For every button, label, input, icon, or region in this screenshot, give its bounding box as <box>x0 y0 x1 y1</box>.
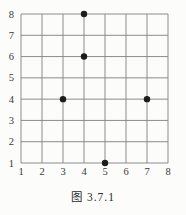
y-tick-label: 8 <box>9 9 14 20</box>
grid-chart: 1234567812345678 <box>0 0 186 186</box>
y-tick-label: 7 <box>9 30 14 41</box>
figure-3-7-1: 1234567812345678 图 3.7.1 <box>0 0 186 215</box>
x-tick-label: 7 <box>144 166 149 177</box>
data-point <box>81 53 87 59</box>
y-tick-label: 1 <box>9 158 14 169</box>
data-point <box>81 11 87 17</box>
y-tick-label: 4 <box>9 94 15 105</box>
y-tick-label: 5 <box>9 72 14 83</box>
x-tick-label: 1 <box>18 166 23 177</box>
data-point <box>102 160 108 166</box>
x-tick-label: 3 <box>60 166 65 177</box>
x-tick-label: 5 <box>102 166 107 177</box>
x-tick-label: 2 <box>39 166 44 177</box>
figure-caption: 图 3.7.1 <box>0 188 186 204</box>
y-tick-label: 3 <box>9 115 14 126</box>
y-tick-label: 2 <box>9 136 14 147</box>
x-tick-label: 6 <box>123 166 128 177</box>
data-point <box>60 96 66 102</box>
x-tick-label: 8 <box>165 166 170 177</box>
x-tick-label: 4 <box>81 166 87 177</box>
y-tick-label: 6 <box>9 51 14 62</box>
data-point <box>144 96 150 102</box>
